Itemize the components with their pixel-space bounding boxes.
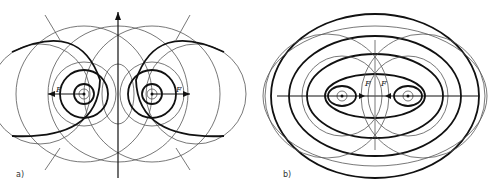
panel-a-diagram: F F (0, 0, 247, 186)
force-label-left: F (55, 85, 62, 94)
force-label-right: F (175, 85, 182, 94)
force-label-right: F (380, 79, 387, 88)
panel-b-diagram: F F (247, 0, 494, 186)
panel-b-label: b) (283, 170, 291, 179)
panel-a-label: a) (16, 170, 24, 179)
figure: F F a) F F b) (0, 0, 494, 186)
force-label-left: F (364, 79, 371, 88)
